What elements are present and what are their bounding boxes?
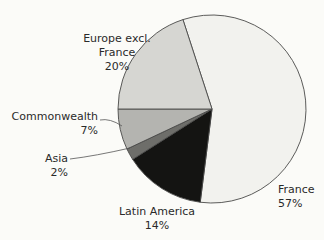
commonwealth-value: 7%: [10, 124, 98, 138]
asia-leader-line: [70, 148, 130, 159]
label-commonwealth: Commonwealth 7%: [10, 110, 98, 138]
asia-value: 2%: [30, 166, 68, 180]
label-latin-america: Latin America 14%: [112, 205, 202, 233]
latam-value: 14%: [112, 219, 202, 233]
label-asia: Asia 2%: [30, 152, 68, 180]
europe-name-line2: France: [72, 46, 162, 60]
europe-name-line1: Europe excl.: [72, 32, 162, 46]
commonwealth-name: Commonwealth: [10, 110, 98, 124]
latam-name: Latin America: [112, 205, 202, 219]
europe-value: 20%: [72, 60, 162, 74]
label-france: France 57%: [278, 183, 324, 211]
france-name: France: [278, 183, 324, 197]
asia-name: Asia: [30, 152, 68, 166]
label-europe: Europe excl. France 20%: [72, 32, 162, 74]
france-value: 57%: [278, 197, 324, 211]
